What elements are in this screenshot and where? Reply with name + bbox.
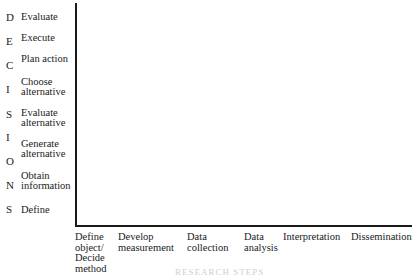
vertical-letter: S [6,204,12,215]
vertical-letter: S [6,109,12,120]
vertical-letter: E [6,36,13,47]
x-label-data-analysis: Data analysis [244,232,278,253]
y-label-generate-alternative: Generate alternative [21,139,65,159]
y-label-evaluate: Evaluate [21,12,58,22]
vertical-letter: D [6,12,14,23]
x-label-data-collection: Data collection [187,232,228,253]
vertical-letter: I [6,132,10,143]
y-axis-line [75,3,77,227]
x-label-develop-measurement: Develop measurement [118,232,174,253]
vertical-letter: N [6,180,14,191]
x-label-dissemination: Dissemination [351,232,412,243]
vertical-letter: I [6,84,10,95]
x-axis-line [75,225,412,227]
y-label-plan-action: Plan action [21,54,68,64]
vertical-letter: O [6,156,14,167]
y-label-obtain-information: Obtain information [21,171,71,191]
y-label-define: Define [21,205,50,215]
y-label-evaluate-alternative: Evaluate alternative [21,108,65,128]
y-label-execute: Execute [21,33,55,43]
x-label-interpretation: Interpretation [283,232,340,243]
x-axis-title: RESEARCH STEPS [175,267,264,275]
vertical-letter: C [6,60,13,71]
y-label-choose-alternative: Choose alternative [21,77,65,97]
x-label-define-object: Define object/ Decide method [75,232,107,274]
